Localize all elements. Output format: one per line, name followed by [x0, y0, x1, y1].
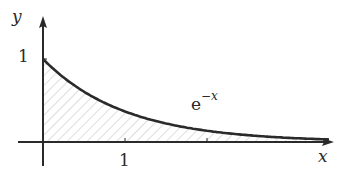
function-base: e	[191, 94, 201, 114]
function-label: e−x	[191, 93, 218, 113]
plot-canvas	[0, 0, 347, 180]
x-tick-label: 1	[119, 152, 130, 169]
y-axis-label: y	[12, 8, 22, 25]
function-exponent: −x	[201, 89, 218, 103]
x-axis-label: x	[318, 148, 328, 165]
y-tick-label: 1	[18, 48, 29, 65]
hatched-area	[43, 59, 330, 142]
